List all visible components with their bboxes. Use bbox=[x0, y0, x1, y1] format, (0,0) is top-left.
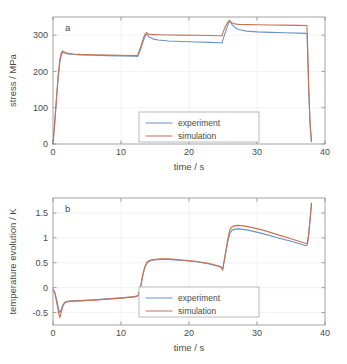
x-axis-label: time / s bbox=[174, 342, 205, 353]
x-tick-label: 30 bbox=[252, 147, 262, 157]
y-tick-label: -0.5 bbox=[32, 308, 48, 318]
y-tick-label: 200 bbox=[33, 67, 48, 77]
y-tick-label: 1.5 bbox=[35, 208, 48, 218]
figure-container: 0102030400100200300time / sstress / MPaa… bbox=[0, 0, 347, 364]
chart-panel-b: 010203040-0.500.511.5time / stemperature… bbox=[0, 182, 347, 364]
y-tick-label: 100 bbox=[33, 103, 48, 113]
x-tick-label: 20 bbox=[184, 147, 194, 157]
y-tick-label: 1 bbox=[43, 233, 48, 243]
panel-label-b: b bbox=[65, 203, 70, 214]
panel-label-a: a bbox=[65, 22, 71, 33]
x-tick-label: 10 bbox=[116, 147, 126, 157]
legend-label-simulation: simulation bbox=[178, 131, 217, 141]
legend-label-experiment: experiment bbox=[178, 293, 221, 303]
x-tick-label: 40 bbox=[320, 147, 330, 157]
x-axis-label: time / s bbox=[174, 161, 205, 172]
x-tick-label: 40 bbox=[320, 328, 330, 338]
x-tick-label: 20 bbox=[184, 328, 194, 338]
x-tick-label: 0 bbox=[50, 147, 55, 157]
x-tick-label: 30 bbox=[252, 328, 262, 338]
x-tick-label: 0 bbox=[50, 328, 55, 338]
chart-panel-a: 0102030400100200300time / sstress / MPaa… bbox=[0, 0, 347, 182]
legend[interactable]: experimentsimulation bbox=[139, 112, 259, 142]
y-tick-label: 0 bbox=[43, 139, 48, 149]
stress-vs-time-chart: 0102030400100200300time / sstress / MPaa… bbox=[0, 0, 347, 182]
y-tick-label: 0.5 bbox=[35, 258, 48, 268]
temperature-evolution-vs-time-chart: 010203040-0.500.511.5time / stemperature… bbox=[0, 182, 347, 364]
y-tick-label: 300 bbox=[33, 30, 48, 40]
y-tick-label: 0 bbox=[43, 283, 48, 293]
y-axis-label: stress / MPa bbox=[7, 53, 18, 107]
legend-label-experiment: experiment bbox=[178, 118, 221, 128]
x-tick-label: 10 bbox=[116, 328, 126, 338]
y-axis-label: temperature evolution / K bbox=[7, 208, 18, 315]
legend[interactable]: experimentsimulation bbox=[139, 287, 259, 317]
legend-label-simulation: simulation bbox=[178, 306, 217, 316]
